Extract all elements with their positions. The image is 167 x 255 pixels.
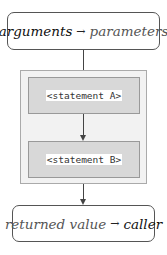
arrow-right-icon: → bbox=[110, 217, 119, 230]
connector-line bbox=[83, 114, 84, 136]
statement-b-box: <statement B> bbox=[28, 141, 140, 178]
statement-a-box: <statement A> bbox=[28, 77, 140, 114]
arrow-right-icon: → bbox=[76, 25, 85, 38]
connector-line bbox=[83, 50, 84, 72]
statement-a-label: <statement A> bbox=[46, 90, 122, 101]
output-box: returned value → caller bbox=[12, 205, 155, 242]
input-box: arguments → parameters bbox=[7, 12, 160, 50]
arguments-label: arguments bbox=[0, 23, 72, 39]
caller-label: caller bbox=[123, 216, 162, 232]
returned-value-label: returned value bbox=[5, 216, 106, 232]
parameters-label: parameters bbox=[90, 23, 167, 39]
statement-b-label: <statement B> bbox=[46, 154, 122, 165]
